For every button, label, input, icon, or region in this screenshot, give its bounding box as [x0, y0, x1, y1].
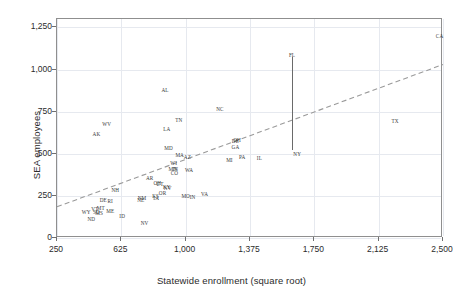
x-tick-label: 250 — [49, 244, 63, 254]
data-point-label: TN — [175, 117, 182, 123]
data-point-label: MS — [95, 210, 103, 216]
data-point-label: MI — [226, 157, 233, 163]
x-tick-label: 2,125 — [367, 244, 388, 254]
y-tick-label: 750 — [38, 106, 52, 116]
x-tick-label: 1,375 — [238, 244, 259, 254]
y-tick-label: 1,250 — [31, 21, 52, 31]
data-point-label: AR — [146, 175, 153, 181]
x-tick-mark — [56, 237, 57, 241]
gridline-vertical — [443, 19, 444, 236]
x-tick-mark — [185, 237, 186, 241]
data-point-label: MO — [181, 193, 190, 199]
y-tick-mark — [52, 26, 56, 27]
data-point-label: TX — [391, 118, 398, 124]
data-point-label: MA — [175, 152, 184, 158]
y-tick-mark — [52, 69, 56, 70]
x-tick-mark — [442, 237, 443, 241]
data-point-label: IA — [153, 195, 159, 201]
data-point-label: PA — [239, 154, 245, 160]
data-point-label: RI — [107, 198, 112, 204]
data-point-label: CA — [436, 33, 443, 39]
x-tick-mark — [120, 237, 121, 241]
data-point-label: LA — [163, 126, 170, 132]
data-point-label: ND — [87, 216, 95, 222]
x-tick-label: 625 — [113, 244, 127, 254]
data-point-label: MD — [164, 145, 173, 151]
y-tick-mark — [52, 111, 56, 112]
data-point-label: NC — [216, 106, 223, 112]
y-tick-mark — [52, 195, 56, 196]
data-point-label: IN — [190, 194, 196, 200]
data-point-label: ID — [119, 213, 125, 219]
x-tick-mark — [313, 237, 314, 241]
data-point-label: OR — [159, 190, 166, 196]
connector-line — [292, 57, 293, 150]
x-tick-mark — [249, 237, 250, 241]
data-point-label: FL — [289, 52, 295, 58]
data-point-label: NV — [141, 220, 149, 226]
data-point-label: WV — [102, 121, 111, 127]
data-point-label: IL — [257, 155, 262, 161]
data-point-label: DE — [232, 138, 239, 144]
data-point-label: AK — [93, 131, 101, 137]
x-axis-label: Statewide enrollment (square root) — [0, 275, 463, 286]
y-tick-label: 500 — [38, 148, 52, 158]
data-point-label: AL — [162, 87, 169, 93]
y-tick-mark — [52, 153, 56, 154]
data-point-label: VA — [201, 191, 208, 197]
data-point-label: CO — [171, 170, 178, 176]
x-tick-label: 1,750 — [303, 244, 324, 254]
y-tick-label: 1,000 — [31, 64, 52, 74]
x-axis-tick-labels: 2506251,0001,3751,7502,1252,500 — [0, 244, 463, 258]
data-point-label: NE — [137, 197, 144, 203]
trendline — [57, 19, 443, 238]
x-tick-label: 2,500 — [431, 244, 452, 254]
data-point-label: ME — [106, 208, 114, 214]
data-point-label: NY — [293, 151, 301, 157]
data-point-label: NH — [111, 187, 119, 193]
y-axis-tick-labels: 02505007501,0001,250 — [14, 18, 52, 237]
plot-area: CAFLALNCTNTXWVLAAKOHDEGAMDMAAZPAILNYMIWI… — [56, 18, 442, 237]
data-point-label: DE — [100, 197, 107, 203]
data-point-label: WY — [82, 209, 91, 215]
data-point-label: WA — [185, 167, 193, 173]
x-tick-label: 1,000 — [174, 244, 195, 254]
y-tick-label: 250 — [38, 190, 52, 200]
x-tick-mark — [378, 237, 379, 241]
scatter-plot-figure: SEA employees Statewide enrollment (squa… — [0, 0, 463, 290]
data-point-label: AZ — [184, 154, 191, 160]
data-point-label: GA — [232, 144, 240, 150]
